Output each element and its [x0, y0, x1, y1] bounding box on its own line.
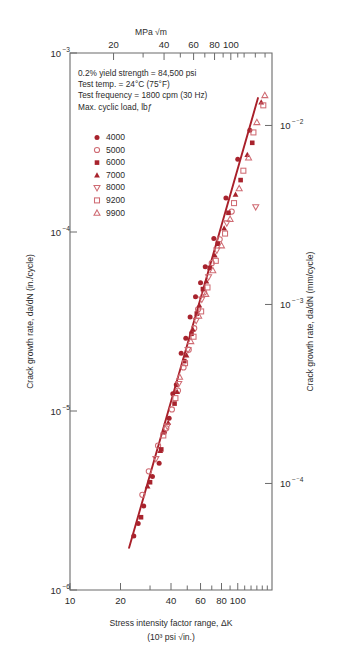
legend-marker-filled-circle	[95, 135, 100, 140]
legend-item-7000[interactable]: 7000	[94, 170, 125, 180]
right-tick-text: 10	[280, 120, 291, 131]
point-marker	[136, 521, 141, 526]
legend-marker-open-square	[95, 198, 100, 203]
point-marker	[205, 285, 210, 290]
legend-item-6000[interactable]: 6000	[95, 157, 126, 167]
annotation-line: 0.2% yield strength = 84,500 psi	[78, 68, 196, 78]
point-marker	[193, 294, 198, 299]
legend-marker-open-circle	[94, 147, 99, 152]
left-tick-label: 10−4	[50, 225, 70, 238]
legend-marker-open-down-triangle	[94, 186, 100, 191]
point-marker	[226, 211, 231, 216]
right-tick-label: 10−⁻3	[280, 297, 304, 310]
point-marker	[262, 92, 268, 97]
point-marker	[139, 515, 144, 520]
point-marker	[241, 168, 246, 173]
plot-frame	[70, 53, 272, 590]
legend-marker-filled-square	[95, 160, 100, 165]
legend-label: 8000	[106, 182, 125, 192]
bottom-tick-label: 20	[115, 595, 126, 606]
point-marker	[223, 195, 228, 200]
point-marker	[232, 201, 237, 206]
annotation-line: Test temp. = 24°C (75°F)	[78, 79, 170, 89]
point-marker	[177, 374, 183, 379]
point-marker	[169, 407, 174, 412]
annotation-text-block: 0.2% yield strength = 84,500 psiTest tem…	[78, 68, 208, 112]
point-marker	[250, 141, 255, 146]
top-tick-label: 60	[188, 39, 199, 50]
right-tick-text: 10	[280, 299, 291, 310]
legend-marker-open-triangle	[94, 210, 100, 215]
legend-label: 4000	[106, 132, 125, 142]
point-marker	[196, 302, 202, 307]
right-tick-exp: −⁻3	[292, 297, 304, 304]
point-marker	[236, 185, 242, 190]
left-tick-label-text: 10	[50, 406, 61, 417]
point-marker	[173, 396, 178, 401]
plot-border	[70, 53, 272, 590]
left-axis-title: Crack growth rate, da/dN (in./cycle)	[25, 254, 35, 389]
bottom-tick-label: 100	[230, 595, 246, 606]
left-tick-label: 10−3	[50, 46, 70, 59]
data-points	[131, 92, 268, 538]
point-marker	[238, 178, 243, 183]
point-marker	[167, 416, 172, 421]
point-marker	[198, 280, 203, 285]
point-marker	[211, 236, 216, 241]
top-tick-label: 20	[108, 39, 119, 50]
bottom-tick-label: 80	[216, 595, 227, 606]
right-tick-label: 10−⁻4	[280, 476, 304, 489]
right-tick-exp: −⁻2	[292, 118, 304, 125]
legend-label: 7000	[106, 170, 125, 180]
point-marker	[254, 119, 260, 124]
annotation-line: Max. cyclic load, lbƒ	[78, 102, 152, 112]
point-marker	[203, 264, 208, 269]
legend: 4000500060007000800092009900	[94, 132, 125, 218]
legend-label: 9200	[106, 195, 125, 205]
top-tick-label: 100	[223, 39, 239, 50]
left-tick-label-exp: −5	[63, 404, 71, 411]
point-marker	[223, 231, 228, 236]
legend-item-9900[interactable]: 9900	[94, 208, 125, 218]
right-axis-title: Crack growth rate, da/dN (mm/cycle)	[305, 251, 315, 391]
top-tick-label: 40	[159, 39, 170, 50]
legend-label: 5000	[106, 145, 125, 155]
point-marker	[183, 336, 188, 341]
bottom-axis-title: Stress intensity factor range, ΔK	[110, 618, 233, 628]
point-marker	[157, 461, 162, 466]
point-marker	[233, 191, 239, 196]
point-marker	[253, 205, 259, 210]
crack-growth-rate-scatter-plot: 20406080100MPa √m 1020406080100 10−310−4…	[0, 0, 340, 662]
point-marker	[141, 503, 146, 508]
point-marker	[179, 351, 184, 356]
legend-label: 9900	[106, 208, 125, 218]
bottom-tick-label: 60	[195, 595, 206, 606]
right-tick-exp: −⁻4	[292, 476, 304, 483]
top-axis-title: MPa √m	[135, 27, 167, 37]
point-marker	[235, 157, 240, 162]
legend-item-5000[interactable]: 5000	[94, 145, 125, 155]
point-marker	[214, 248, 220, 253]
bottom-tick-label: 10	[65, 595, 76, 606]
chart-canvas: 20406080100MPa √m 1020406080100 10−310−4…	[0, 0, 340, 662]
top-tick-label: 80	[209, 39, 220, 50]
left-axis-in-per-cycle: 10−310−410−510−6	[50, 46, 77, 596]
legend-item-9200[interactable]: 9200	[95, 195, 126, 205]
series-9200	[161, 103, 266, 438]
point-marker	[172, 401, 177, 406]
point-marker	[131, 534, 136, 539]
left-tick-label: 10−5	[50, 404, 70, 417]
left-tick-label-text: 10	[50, 48, 61, 59]
point-marker	[150, 474, 155, 479]
legend-item-8000[interactable]: 8000	[94, 182, 125, 192]
right-tick-label: 10−⁻2	[280, 118, 304, 131]
point-marker	[188, 315, 193, 320]
bottom-axis-units: (10³ psi √in.)	[147, 632, 195, 642]
point-marker	[148, 480, 153, 485]
legend-item-4000[interactable]: 4000	[95, 132, 126, 142]
bottom-tick-label: 40	[166, 595, 177, 606]
legend-label: 6000	[106, 157, 125, 167]
right-tick-text: 10	[280, 478, 291, 489]
right-axis-mm-per-cycle: 10−⁻210−⁻310−⁻4	[265, 118, 304, 489]
left-tick-label-text: 10	[50, 227, 61, 238]
